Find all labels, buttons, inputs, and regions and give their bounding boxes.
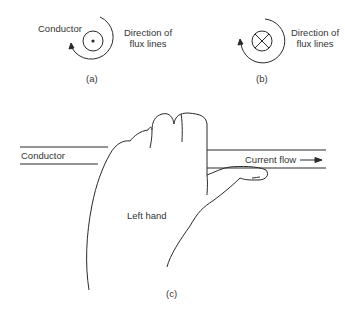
panel-b-figure bbox=[238, 19, 285, 63]
flux-label-a-line2: flux lines bbox=[118, 38, 178, 49]
conductor-label-c: Conductor bbox=[21, 150, 65, 161]
caption-c: (c) bbox=[166, 288, 177, 299]
caption-a: (a) bbox=[86, 73, 98, 84]
finger-crease-1 bbox=[150, 130, 152, 148]
flux-label-b-line2: flux lines bbox=[285, 38, 345, 49]
flux-label-a-line1: Direction of bbox=[118, 27, 178, 38]
finger-crease-2 bbox=[181, 114, 182, 142]
flux-label-b-line1: Direction of bbox=[285, 27, 345, 38]
current-flow-label: Current flow bbox=[245, 154, 296, 165]
flux-arrowhead-b-icon bbox=[238, 39, 243, 45]
flux-arc-b bbox=[241, 19, 285, 63]
conductor-label-a: Conductor bbox=[38, 23, 82, 34]
panel-c-figure bbox=[20, 113, 326, 290]
left-hand-label: Left hand bbox=[127, 210, 167, 221]
thumbnail bbox=[252, 177, 260, 178]
current-arrowhead-icon bbox=[315, 158, 322, 163]
current-dot-icon bbox=[91, 39, 94, 42]
flux-arrowhead-a-icon bbox=[69, 43, 74, 49]
left-hand-outline bbox=[87, 113, 268, 290]
caption-b: (b) bbox=[256, 73, 268, 84]
